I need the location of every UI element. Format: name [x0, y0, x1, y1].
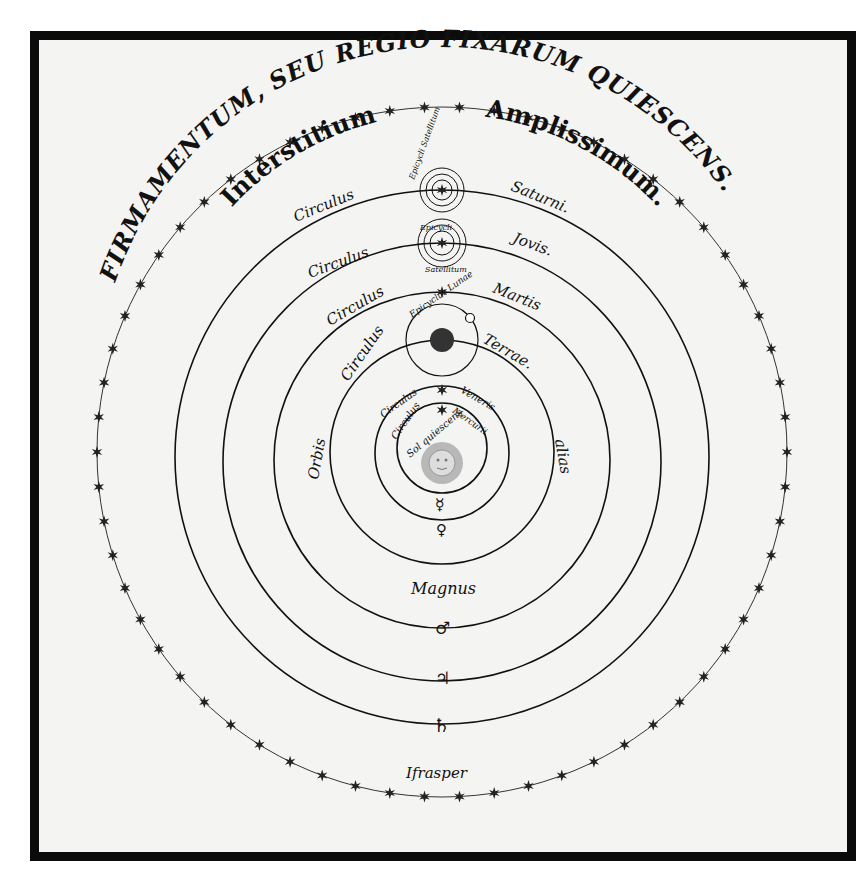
- fixed-star-icon: [317, 770, 327, 782]
- fixed-star-icon: [754, 582, 764, 594]
- fixed-star-icon: [108, 549, 118, 561]
- alias-label: alias: [551, 438, 575, 476]
- fixed-star-icon: [523, 780, 533, 792]
- fixed-star-icon: [385, 105, 395, 117]
- magnus-label: Magnus: [410, 579, 476, 598]
- fixed-star-icon: [648, 719, 658, 731]
- fixed-star-icon: [92, 446, 102, 458]
- fixed-star-icon: [775, 377, 785, 389]
- fixed-star-icon: [557, 770, 567, 782]
- fixed-star-icon: [154, 643, 164, 655]
- fixed-star-icon: [775, 515, 785, 527]
- fixed-star-icon: [720, 643, 730, 655]
- saturn-satellites-label: Epicycli Satellitum: [407, 105, 442, 181]
- sun-icon: [421, 442, 463, 484]
- fixed-star-icon: [738, 279, 748, 291]
- fixed-star-icon: [285, 756, 295, 768]
- jupiter-circulus-label: Circulus: [305, 243, 371, 282]
- fixed-star-icon: [589, 756, 599, 768]
- earth-circulus-label: Circulus: [337, 322, 388, 385]
- fixed-star-icon: [720, 249, 730, 261]
- bottom-label: Ifrasper: [405, 764, 468, 782]
- fixed-star-icon: [135, 613, 145, 625]
- fixed-star-icon: [766, 343, 776, 355]
- mercury-star-icon: [437, 404, 447, 416]
- mars-circulus-label: Circulus: [323, 282, 387, 330]
- saturn-symbol-icon: ♄: [433, 714, 450, 736]
- fixed-star-icon: [135, 279, 145, 291]
- fixed-star-icon: [154, 249, 164, 261]
- saturn-name-label: Saturni.: [509, 177, 573, 217]
- fixed-star-icon: [738, 613, 748, 625]
- cosmology-diagram: FIRMAMENTUM, SEU REGIO FIXARUM QUIESCENS…: [0, 0, 866, 881]
- jupiter-symbol-icon: ♃: [435, 668, 450, 688]
- fixed-star-icon: [226, 719, 236, 731]
- mercury-symbol-icon: ☿: [435, 495, 445, 514]
- saturn-circulus-label: Circulus: [291, 185, 357, 226]
- orbis-label: Orbis: [304, 436, 329, 480]
- moon-icon: [466, 314, 475, 323]
- fixed-star-icon: [120, 582, 130, 594]
- fixed-star-icon: [780, 411, 790, 423]
- fixed-star-icon: [254, 739, 264, 751]
- fixed-star-icon: [94, 481, 104, 493]
- jupiter-satellites-bottom-label: Satellitum: [425, 265, 467, 274]
- fixed-star-icon: [489, 787, 499, 799]
- earth-icon: [430, 328, 454, 352]
- fixed-star-icon: [780, 481, 790, 493]
- mars-symbol-icon: ♂: [435, 618, 450, 638]
- fixed-star-icon: [754, 310, 764, 322]
- fixed-star-icon: [782, 446, 792, 458]
- fixed-star-icon: [619, 739, 629, 751]
- fixed-star-icon: [350, 780, 360, 792]
- venus-symbol-icon: ♀: [436, 521, 447, 539]
- fixed-star-icon: [120, 310, 130, 322]
- fixed-star-icon: [108, 343, 118, 355]
- fixed-star-icon: [766, 549, 776, 561]
- fixed-star-icon: [385, 787, 395, 799]
- jupiter-satellites-top-label: Epicycli: [419, 223, 453, 232]
- earth-name-label: Terrae.: [480, 330, 536, 373]
- fixed-star-icon: [94, 411, 104, 423]
- fixed-star-icon: [99, 377, 109, 389]
- fixed-star-icon: [99, 515, 109, 527]
